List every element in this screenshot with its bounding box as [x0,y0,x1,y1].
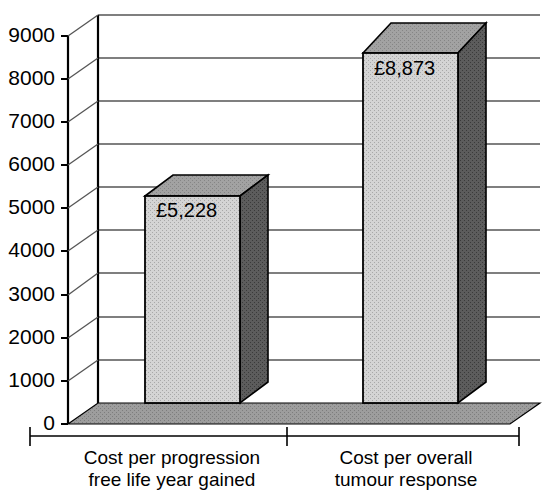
y-label-6000: 6000 [8,152,55,175]
bar-2-value-label: £8,873 [374,57,435,79]
bar-cost-per-progression-free-life-year-gained[interactable]: £5,228 [145,175,268,403]
bar-2-side-face [458,23,486,403]
y-label-8000: 8000 [8,66,55,89]
bar-cost-per-overall-tumour-response[interactable]: £8,873 [363,23,486,403]
y-label-3000: 3000 [8,282,55,305]
bar-chart-3d: 9000 8000 7000 6000 5000 4000 3000 2000 … [0,0,549,496]
category-label-2-line-1: Cost per overall [339,447,472,468]
bar-1-side-face [240,175,268,403]
y-label-0: 0 [43,411,55,434]
y-label-4000: 4000 [8,238,55,261]
y-label-2000: 2000 [8,325,55,348]
bar-1-front-face [145,196,240,403]
y-label-9000: 9000 [8,23,55,46]
y-label-7000: 7000 [8,109,55,132]
category-label-1-line-1: Cost per progression [84,447,260,468]
y-label-5000: 5000 [8,195,55,218]
bar-2-front-face [363,53,458,403]
y-label-1000: 1000 [8,368,55,391]
plot-floor [68,403,540,424]
category-label-2-line-2: tumour response [335,469,478,490]
bar-1-value-label: £5,228 [156,199,217,221]
chart-container: 9000 8000 7000 6000 5000 4000 3000 2000 … [0,0,549,496]
category-label-1-line-2: free life year gained [89,469,256,490]
